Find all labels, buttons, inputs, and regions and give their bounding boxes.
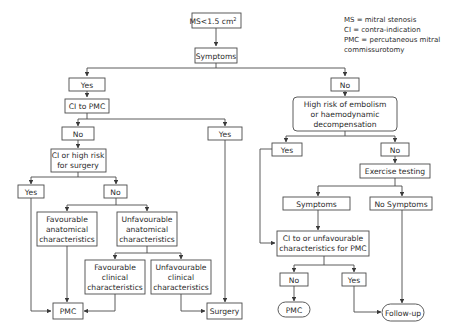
svg-text:No: No (110, 188, 121, 197)
svg-text:High risk of embolism: High risk of embolism (304, 100, 387, 109)
svg-text:decompensation: decompensation (313, 120, 376, 129)
svg-text:PMC = percutaneous mitral: PMC = percutaneous mitral (344, 36, 440, 44)
svg-text:CI or high risk: CI or high risk (52, 151, 105, 160)
svg-text:Unfavourable: Unfavourable (155, 263, 206, 272)
svg-text:No: No (390, 146, 401, 155)
svg-text:Unfavourable: Unfavourable (121, 215, 172, 224)
svg-text:anatomical: anatomical (126, 225, 168, 234)
svg-text:characteristics for PMC: characteristics for PMC (279, 244, 366, 253)
node-pmc-left: PMC (53, 303, 83, 319)
node-final-no: No (280, 273, 308, 286)
svg-text:anatomical: anatomical (46, 225, 88, 234)
svg-text:commissurotomy: commissurotomy (344, 46, 404, 54)
flowchart: MS = mitral stenosis CI = contra-indicat… (0, 0, 451, 333)
node-symptoms: Symptoms (195, 48, 237, 63)
node-follow-up: Follow-up (382, 304, 424, 321)
node-high-risk: High risk of embolism or haemodynamic de… (293, 97, 397, 131)
svg-text:MS<1.5 cm2: MS<1.5 cm2 (190, 16, 237, 26)
node-ci-surgery-yes: Yes (18, 185, 44, 198)
node-start: MS<1.5 cm2 (190, 13, 242, 28)
svg-text:Symptoms: Symptoms (296, 200, 337, 209)
svg-text:CI to PMC: CI to PMC (69, 102, 105, 111)
svg-text:No: No (289, 276, 300, 285)
svg-text:characteristics: characteristics (39, 235, 95, 244)
node-final-yes: Yes (342, 273, 366, 286)
node-high-risk-yes: Yes (272, 143, 302, 156)
node-ci-pmc: CI to PMC (65, 99, 109, 113)
svg-text:or haemodynamic: or haemodynamic (311, 110, 380, 119)
node-fav-clin: Favourable clinical characteristics (85, 260, 145, 294)
node-surgery: Surgery (207, 303, 242, 319)
svg-text:PMC: PMC (60, 307, 76, 316)
node-ci-pmc-yes: Yes (208, 127, 242, 140)
node-no-symptoms: No (331, 78, 359, 91)
svg-text:characteristics: characteristics (87, 283, 143, 292)
node-exercise: Exercise testing (360, 164, 430, 178)
node-ci-pmc-no: No (62, 127, 94, 140)
svg-text:PMC: PMC (286, 306, 302, 315)
svg-text:Yes: Yes (24, 188, 37, 197)
svg-text:Follow-up: Follow-up (385, 309, 421, 318)
svg-text:clinical: clinical (102, 273, 128, 282)
svg-text:Exercise testing: Exercise testing (365, 167, 426, 176)
svg-text:Surgery: Surgery (210, 307, 240, 316)
svg-text:Yes: Yes (280, 146, 293, 155)
svg-text:No: No (340, 81, 351, 90)
node-ci-surgery-no: No (104, 185, 127, 198)
svg-text:CI to or unfavourable: CI to or unfavourable (283, 234, 364, 243)
svg-text:for surgery: for surgery (57, 161, 99, 170)
svg-text:CI = contra-indication: CI = contra-indication (344, 26, 421, 34)
node-high-risk-no: No (381, 143, 409, 156)
svg-text:No: No (73, 130, 84, 139)
svg-text:MS = mitral stenosis: MS = mitral stenosis (344, 16, 417, 24)
node-fav-anat: Favourable anatomical characteristics (37, 212, 97, 246)
node-unfav-clin: Unfavourable clinical characteristics (151, 260, 211, 294)
node-unfav-anat: Unfavourable anatomical characteristics (117, 212, 177, 246)
svg-text:No Symptoms: No Symptoms (374, 200, 427, 209)
svg-text:Yes: Yes (80, 81, 93, 90)
svg-text:characteristics: characteristics (119, 235, 175, 244)
svg-text:Favourable: Favourable (94, 263, 136, 272)
svg-text:clinical: clinical (168, 273, 194, 282)
svg-text:Yes: Yes (218, 130, 231, 139)
svg-text:Favourable: Favourable (46, 215, 88, 224)
svg-text:characteristics: characteristics (153, 283, 209, 292)
node-pmc-right: PMC (278, 302, 310, 317)
node-ci-unfav-pmc: CI to or unfavourable characteristics fo… (277, 231, 369, 256)
node-yes-symptoms: Yes (69, 78, 105, 91)
legend: MS = mitral stenosis CI = contra-indicat… (344, 16, 440, 54)
node-ci-surgery: CI or high risk for surgery (51, 149, 106, 172)
svg-text:Yes: Yes (347, 276, 360, 285)
svg-text:Symptoms: Symptoms (196, 52, 237, 61)
node-ex-symptoms: Symptoms (283, 197, 350, 210)
node-ex-no-symptoms: No Symptoms (370, 197, 432, 210)
